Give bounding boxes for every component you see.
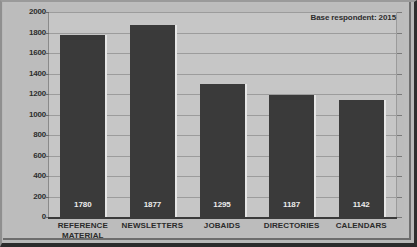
- gridline: [49, 33, 397, 34]
- x-axis-category-label-line: MATERIAL: [48, 231, 118, 241]
- y-axis-tick-label: 1600: [10, 49, 46, 57]
- y-axis-tick-label: 800: [10, 131, 46, 139]
- y-axis-tick: [44, 33, 49, 34]
- y-axis-tick-label: 600: [10, 152, 46, 160]
- y-axis-tick-right: [397, 53, 402, 54]
- bar[interactable]: 1877: [130, 25, 177, 217]
- bar-value-label: 1877: [130, 200, 175, 209]
- x-axis-category-label-line: REFERENCE: [48, 221, 118, 231]
- y-axis-tick: [44, 74, 49, 75]
- x-axis-category-label: JOBAIDS: [187, 221, 257, 231]
- y-axis-tick-label: 1000: [10, 111, 46, 119]
- y-axis-tick-label: 2000: [10, 8, 46, 16]
- x-axis-labels: REFERENCEMATERIALNEWSLETTERSJOBAIDSDIREC…: [48, 221, 397, 247]
- x-axis-category-label-line: JOBAIDS: [187, 221, 257, 231]
- bar-value-label: 1187: [269, 200, 314, 209]
- y-axis-tick: [44, 12, 49, 13]
- bar-chart: 2000180016001400120010008006004002000 17…: [6, 4, 404, 236]
- bar-value-label: 1295: [200, 200, 245, 209]
- y-axis-tick-label: 1400: [10, 70, 46, 78]
- y-axis-tick-right: [397, 115, 402, 116]
- y-axis-tick-right: [397, 94, 402, 95]
- y-axis-tick-label: 1200: [10, 90, 46, 98]
- y-axis-tick: [44, 135, 49, 136]
- y-axis-tick-right: [397, 12, 402, 13]
- bar-value-label: 1142: [339, 200, 384, 209]
- y-axis-tick-right: [397, 74, 402, 75]
- y-axis-tick-label: 0: [10, 213, 46, 221]
- y-axis-tick: [44, 53, 49, 54]
- y-axis-tick-label: 200: [10, 193, 46, 201]
- y-axis-tick: [44, 176, 49, 177]
- bar[interactable]: 1187: [269, 95, 316, 217]
- y-axis-tick: [44, 94, 49, 95]
- x-axis-category-label: NEWSLETTERS: [118, 221, 188, 231]
- x-axis-category-label-line: CALENDARS: [326, 221, 396, 231]
- y-axis-tick-right: [397, 176, 402, 177]
- y-axis-tick: [44, 156, 49, 157]
- bar-value-label: 1780: [60, 200, 105, 209]
- y-axis-labels: 2000180016001400120010008006004002000: [6, 12, 46, 217]
- bar[interactable]: 1142: [339, 100, 386, 217]
- x-axis-category-label: REFERENCEMATERIAL: [48, 221, 118, 241]
- x-axis-category-label-line: DIRECTORIES: [257, 221, 327, 231]
- y-axis-tick-right: [397, 217, 402, 218]
- y-axis-tick: [44, 197, 49, 198]
- x-axis-category-label: DIRECTORIES: [257, 221, 327, 231]
- bar[interactable]: 1295: [200, 84, 247, 217]
- y-axis-tick-label: 1800: [10, 29, 46, 37]
- y-axis-tick-right: [397, 156, 402, 157]
- x-axis-category-label-line: NEWSLETTERS: [118, 221, 188, 231]
- x-axis-line: [48, 217, 397, 219]
- base-respondent-annotation: Base respondent: 2015: [311, 13, 397, 22]
- y-axis-tick-right: [397, 197, 402, 198]
- bar[interactable]: 1780: [60, 35, 107, 217]
- plot-area: 17801877129511871142: [48, 12, 397, 217]
- y-axis-tick-right: [397, 135, 402, 136]
- chart-screenshot: 2000180016001400120010008006004002000 17…: [0, 0, 417, 247]
- y-axis-tick-label: 400: [10, 172, 46, 180]
- x-axis-category-label: CALENDARS: [326, 221, 396, 231]
- y-axis-tick-right: [397, 33, 402, 34]
- y-axis-tick: [44, 115, 49, 116]
